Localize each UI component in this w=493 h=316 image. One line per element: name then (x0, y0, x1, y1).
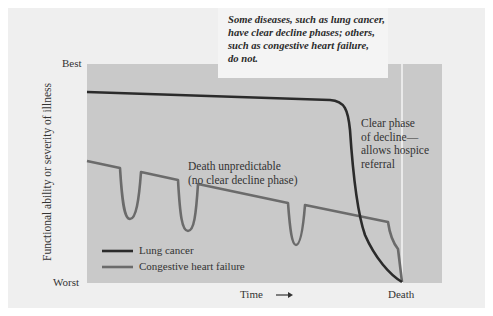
annotation-chf-line-1: Death unpredictable (188, 160, 298, 174)
x-tick-death: Death (388, 288, 414, 301)
series-lung-cancer (87, 92, 402, 282)
annotation-lung-line-2: of decline— (361, 131, 429, 145)
annotation-lung-cancer: Clear phase of decline— allows hospice r… (361, 117, 429, 171)
callout-line-3: such as congestive heart failure, (228, 39, 383, 52)
annotation-lung-line-4: referral (361, 158, 429, 172)
x-axis-label-time: Time (240, 288, 263, 301)
y-axis-label: Functional ability or severity of illnes… (41, 83, 53, 261)
callout-line-1: Some diseases, such as lung cancer, (228, 13, 383, 26)
annotation-lung-line-1: Clear phase (361, 117, 429, 131)
callout-line-4: do not. (228, 52, 383, 65)
y-tick-best: Best (62, 57, 82, 70)
legend-label-lung-cancer: Lung cancer (139, 244, 194, 257)
callout-line-2: have clear decline phases; others, (228, 26, 383, 39)
annotation-chf-line-2: (no clear decline phase) (188, 174, 298, 188)
legend-label-chf: Congestive heart failure (139, 260, 245, 273)
time-arrow-icon (288, 292, 293, 298)
callout-box: Some diseases, such as lung cancer, have… (218, 8, 388, 78)
annotation-lung-line-3: allows hospice (361, 144, 429, 158)
y-tick-worst: Worst (53, 276, 79, 289)
annotation-chf: Death unpredictable (no clear decline ph… (188, 160, 298, 187)
